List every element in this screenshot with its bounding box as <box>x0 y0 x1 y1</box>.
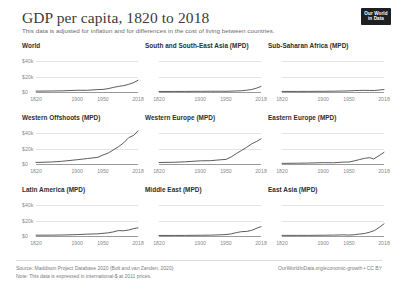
series-line <box>282 199 384 236</box>
chart-footer: Source: Maddison Project Database 2020 (… <box>0 260 398 287</box>
facet-title: World <box>22 42 40 49</box>
axis-baseline <box>36 236 138 237</box>
x-axis-tick-label: 1950 <box>220 168 232 174</box>
plot-inner: $0$20k$40k <box>36 55 138 92</box>
x-axis-tick-label: 1900 <box>317 240 329 246</box>
owid-chart-page: GDP per capita, 1820 to 2018 This data i… <box>0 0 398 287</box>
axis-baseline <box>282 164 384 165</box>
x-axis-tick-label: 2018 <box>132 168 144 174</box>
x-axis-tick-label: 1820 <box>153 96 165 102</box>
facet-panel-western-offshoots: Western Offshoots (MPD)$0$20k$40k1820190… <box>22 114 140 180</box>
x-axis-tick-label: 2018 <box>132 240 144 246</box>
plot-area: 1820190019502018 <box>145 127 263 174</box>
y-axis-tick-label: $20k <box>22 74 35 80</box>
series-line <box>159 55 261 92</box>
axis-baseline <box>36 164 138 165</box>
plot-area: 1820190019502018 <box>268 199 386 246</box>
x-axis-tick-label: 1820 <box>30 96 42 102</box>
x-axis-tick-label: 2018 <box>132 96 144 102</box>
x-axis-tick-label: 1820 <box>30 240 42 246</box>
facet-title: South and South-East Asia (MPD) <box>145 42 249 49</box>
x-axis-tick-label: 1900 <box>71 96 83 102</box>
x-axis-tick-label: 1820 <box>153 168 165 174</box>
plot-inner <box>282 127 384 164</box>
our-world-in-data-logo[interactable]: Our World in Data <box>361 8 391 25</box>
facet-title: Western Europe (MPD) <box>145 114 215 121</box>
x-axis-tick-label: 1950 <box>97 240 109 246</box>
series-line <box>36 127 138 164</box>
axis-baseline <box>36 92 138 93</box>
x-axis-tick-label: 1900 <box>71 168 83 174</box>
y-axis-tick-label: $20k <box>22 218 35 224</box>
series-line <box>159 127 261 164</box>
x-axis-tick-label: 1900 <box>317 96 329 102</box>
x-axis-tick-label: 1820 <box>276 240 288 246</box>
plot-inner <box>159 127 261 164</box>
plot-area: 1820190019502018 <box>145 199 263 246</box>
axis-baseline <box>159 164 261 165</box>
series-line <box>159 199 261 236</box>
axis-baseline <box>282 92 384 93</box>
y-axis-tick-label: $0 <box>22 161 35 167</box>
facet-panel-middle-east: Middle East (MPD)1820190019502018 <box>145 186 263 252</box>
plot-inner: $0$20k$40k <box>36 199 138 236</box>
x-axis-tick-label: 1820 <box>276 168 288 174</box>
x-axis-tick-label: 2018 <box>378 168 390 174</box>
x-axis-tick-label: 1900 <box>317 168 329 174</box>
y-axis-tick-label: $20k <box>22 146 35 152</box>
facet-panel-sub-saharan-africa: Sub-Saharan Africa (MPD)1820190019502018 <box>268 42 386 108</box>
plot-area: 1820190019502018 <box>268 127 386 174</box>
x-axis-tick-label: 1820 <box>276 96 288 102</box>
x-axis-tick-label: 1900 <box>194 96 206 102</box>
facet-panel-south-and-south-east-asia: South and South-East Asia (MPD)182019001… <box>145 42 263 108</box>
x-axis-tick-label: 2018 <box>255 168 267 174</box>
plot-area: $0$20k$40k1820190019502018 <box>22 55 140 102</box>
plot-inner <box>159 199 261 236</box>
facet-panel-eastern-europe: Eastern Europe (MPD)1820190019502018 <box>268 114 386 180</box>
x-axis-tick-label: 2018 <box>378 240 390 246</box>
facet-title: East Asia (MPD) <box>268 186 318 193</box>
facet-title: Latin America (MPD) <box>22 186 85 193</box>
x-axis-tick-label: 1950 <box>343 96 355 102</box>
facet-title: Sub-Saharan Africa (MPD) <box>268 42 349 49</box>
y-axis-tick-label: $40k <box>22 202 35 208</box>
x-axis-tick-label: 1950 <box>343 168 355 174</box>
facet-title: Middle East (MPD) <box>145 186 202 193</box>
chart-header: GDP per capita, 1820 to 2018 This data i… <box>0 0 398 42</box>
axis-baseline <box>159 236 261 237</box>
logo-line-2: in Data <box>368 17 384 22</box>
plot-area: 1820190019502018 <box>145 55 263 102</box>
footer-divider <box>16 260 382 261</box>
plot-inner: $0$20k$40k <box>36 127 138 164</box>
plot-area: $0$20k$40k1820190019502018 <box>22 127 140 174</box>
series-line <box>282 55 384 92</box>
x-axis-tick-label: 1950 <box>220 96 232 102</box>
x-axis-tick-label: 1950 <box>97 168 109 174</box>
plot-area: 1820190019502018 <box>268 55 386 102</box>
facet-grid: World$0$20k$40k1820190019502018South and… <box>0 42 398 258</box>
axis-baseline <box>282 236 384 237</box>
footer-source-text: Source: Maddison Project Database 2020 (… <box>16 265 173 271</box>
plot-inner <box>282 199 384 236</box>
x-axis-tick-label: 2018 <box>255 240 267 246</box>
x-axis-tick-label: 1950 <box>97 96 109 102</box>
y-axis-tick-label: $40k <box>22 130 35 136</box>
series-line <box>36 199 138 236</box>
series-line <box>282 127 384 164</box>
plot-inner <box>282 55 384 92</box>
x-axis-tick-label: 1820 <box>153 240 165 246</box>
page-subtitle: This data is adjusted for inflation and … <box>22 27 275 34</box>
x-axis-tick-label: 2018 <box>255 96 267 102</box>
x-axis-tick-label: 1900 <box>194 240 206 246</box>
facet-panel-latin-america: Latin America (MPD)$0$20k$40k18201900195… <box>22 186 140 252</box>
plot-area: $0$20k$40k1820190019502018 <box>22 199 140 246</box>
y-axis-tick-label: $40k <box>22 58 35 64</box>
x-axis-tick-label: 1950 <box>343 240 355 246</box>
x-axis-tick-label: 2018 <box>378 96 390 102</box>
x-axis-tick-label: 1820 <box>30 168 42 174</box>
x-axis-tick-label: 1900 <box>71 240 83 246</box>
footer-link-text[interactable]: OurWorldInData.org/economic-growth • CC … <box>278 265 382 271</box>
facet-panel-world: World$0$20k$40k1820190019502018 <box>22 42 140 108</box>
y-axis-tick-label: $0 <box>22 233 35 239</box>
x-axis-tick-label: 1900 <box>194 168 206 174</box>
